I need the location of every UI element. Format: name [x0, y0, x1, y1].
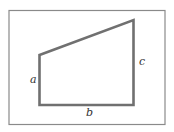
side-label-b: b — [86, 106, 93, 119]
side-label-a: a — [30, 73, 37, 86]
trapezoid-shape — [40, 20, 134, 105]
side-label-c: c — [139, 55, 145, 68]
diagram-canvas: a b c — [0, 0, 174, 132]
